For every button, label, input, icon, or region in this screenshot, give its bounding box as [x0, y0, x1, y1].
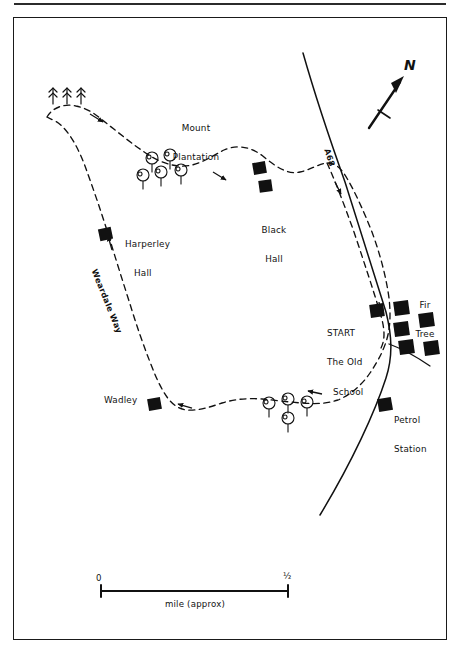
- label-school: School: [327, 388, 385, 398]
- label-start-the-old-school: START The Old School: [327, 309, 385, 417]
- page-top-rule: [14, 3, 446, 5]
- label-black-hall-line1: Black: [248, 226, 300, 236]
- label-fir-tree-line1: Fir: [405, 301, 445, 311]
- label-fir-tree: Fir Tree: [405, 281, 445, 360]
- label-mount-plantation-line1: Mount: [160, 124, 232, 134]
- label-the-old: The Old: [327, 358, 385, 368]
- label-scale-start: 0: [96, 574, 102, 584]
- label-petrol-station-line2: Station: [394, 445, 454, 455]
- label-harperley-hall: Harperley Hall: [125, 220, 197, 299]
- label-black-hall: Black Hall: [248, 206, 300, 285]
- label-wadley: Wadley: [104, 396, 137, 406]
- map-page: Mount Plantation Black Hall Harperley Ha…: [0, 0, 460, 654]
- label-petrol-station: Petrol Station: [394, 396, 454, 475]
- label-scale-caption: mile (approx): [135, 600, 255, 610]
- label-harperley-hall-line1: Harperley: [125, 240, 197, 250]
- label-mount-plantation-line2: Plantation: [160, 153, 232, 163]
- label-black-hall-line2: Hall: [248, 255, 300, 265]
- label-fir-tree-line2: Tree: [405, 330, 445, 340]
- label-harperley-hall-line2: Hall: [125, 269, 197, 279]
- label-scale-end: ½: [283, 572, 292, 582]
- label-mount-plantation: Mount Plantation: [160, 104, 232, 183]
- label-north: N: [404, 58, 416, 74]
- label-start: START: [327, 329, 385, 339]
- label-petrol-station-line1: Petrol: [394, 416, 454, 426]
